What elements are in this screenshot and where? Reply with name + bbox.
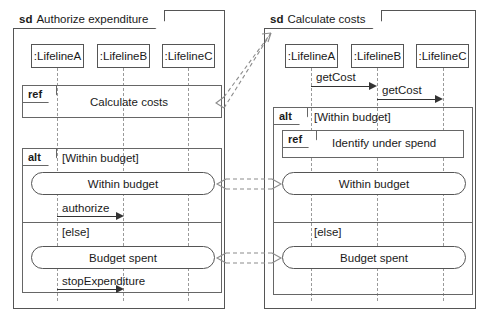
left-alt-operand-divider (22, 222, 222, 223)
left-frame-title: Authorize expenditure (36, 13, 148, 25)
left-lifeline-b-label: :LifelineB (100, 50, 147, 62)
right-message-getcost-2-arrowhead (435, 95, 443, 103)
right-alt-guard-2: [else] (314, 226, 342, 238)
right-message-getcost-2-label: getCost (382, 84, 422, 96)
left-frame-keyword: sd (19, 13, 32, 25)
right-lifeline-a[interactable]: :LifelineA (285, 44, 338, 68)
right-alt-guard-1: [Within budget] (314, 111, 391, 123)
left-lifeline-b[interactable]: :LifelineB (97, 44, 150, 68)
left-lifeline-a-label: :LifelineA (34, 50, 81, 62)
right-message-getcost-1-line (311, 86, 371, 87)
right-lifeline-a-label: :LifelineA (288, 50, 335, 62)
right-state-within-budget[interactable]: Within budget (282, 172, 466, 195)
right-message-getcost-1-label: getCost (316, 71, 356, 83)
left-state-budget-spent-label: Budget spent (89, 252, 157, 264)
right-ref-tag: ref (283, 131, 317, 148)
left-state-budget-spent[interactable]: Budget spent (31, 246, 215, 269)
left-alt-fragment[interactable]: alt (22, 148, 222, 293)
right-lifeline-b-label: :LifelineB (354, 50, 401, 62)
right-alt-tag: alt (274, 108, 308, 125)
left-message-authorize-line (57, 216, 118, 217)
left-ref-tag: ref (23, 86, 57, 103)
right-ref-label: Identify under spend (332, 137, 436, 149)
right-state-within-budget-label: Within budget (339, 178, 409, 190)
right-frame-keyword: sd (270, 13, 283, 25)
left-alt-guard-2: [else] (62, 226, 90, 238)
right-lifeline-c-label: :LifelineC (419, 50, 467, 62)
left-message-stopexpenditure-arrowhead (116, 285, 124, 293)
right-state-budget-spent-label: Budget spent (340, 252, 408, 264)
right-message-getcost-1-arrowhead (369, 82, 377, 90)
left-lifeline-c-label: :LifelineC (165, 50, 213, 62)
left-state-within-budget[interactable]: Within budget (31, 172, 215, 195)
right-frame-label: sd Calculate costs (264, 10, 382, 29)
right-lifeline-c[interactable]: :LifelineC (416, 44, 469, 68)
left-message-authorize-arrowhead (116, 212, 124, 220)
left-lifeline-a[interactable]: :LifelineA (31, 44, 84, 68)
left-state-within-budget-label: Within budget (88, 178, 158, 190)
right-state-budget-spent[interactable]: Budget spent (282, 246, 466, 269)
left-alt-tag: alt (23, 149, 57, 166)
left-frame-label: sd Authorize expenditure (13, 10, 165, 29)
left-message-stopexpenditure-label: stopExpenditure (62, 275, 145, 287)
right-alt-operand-divider (273, 222, 473, 223)
right-lifeline-b[interactable]: :LifelineB (351, 44, 404, 68)
diagram-canvas: sd Authorize expenditure :LifelineA :Lif… (0, 0, 489, 322)
left-alt-guard-1: [Within budget] (62, 152, 139, 164)
left-ref-label: Calculate costs (90, 96, 168, 108)
right-message-getcost-2-line (377, 99, 437, 100)
left-message-stopexpenditure-line (57, 289, 118, 290)
left-message-authorize-label: authorize (62, 202, 109, 214)
right-frame-title: Calculate costs (287, 13, 365, 25)
left-lifeline-c[interactable]: :LifelineC (162, 44, 215, 68)
